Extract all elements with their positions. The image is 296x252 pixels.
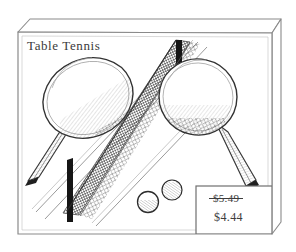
- product-package-illustration: Table Tennis $5.49 $4.44: [0, 0, 296, 252]
- package-box-side-face: [272, 19, 281, 234]
- page-title: Table Tennis: [27, 38, 100, 54]
- original-price: $5.49: [213, 192, 239, 204]
- package-box-top-face: [18, 19, 281, 33]
- sale-price: $4.44: [214, 210, 243, 225]
